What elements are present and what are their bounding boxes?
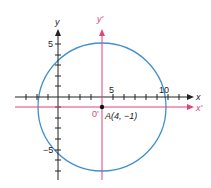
diagram-canvas: y y' x x' 5 10 5 −5 0' A(4, −1) <box>0 0 211 188</box>
x-prime-axis-arrow-icon <box>187 104 194 110</box>
x-axis-arrow-icon <box>187 94 194 100</box>
y-prime-axis-label: y' <box>96 14 104 24</box>
y-prime-axis-arrow-icon <box>99 29 105 36</box>
x-prime-axis-label: x' <box>195 103 203 113</box>
point-a-label: A(4, −1) <box>104 111 137 121</box>
tick-label-y-neg5: −5 <box>43 145 53 155</box>
tick-label-x-5: 5 <box>109 85 114 95</box>
x-axis-label: x <box>195 92 201 102</box>
y-axis-arrow-icon <box>55 29 61 36</box>
tick-label-y-5: 5 <box>48 39 53 49</box>
point-a <box>100 105 104 109</box>
y-axis-label: y <box>54 17 60 27</box>
tick-label-x-10: 10 <box>159 85 169 95</box>
origin-prime-label: 0' <box>92 109 99 119</box>
